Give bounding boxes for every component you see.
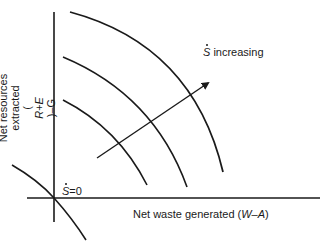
increasing-label-suffix: increasing <box>210 46 263 58</box>
curve-level-1 <box>63 100 147 185</box>
increasing-arrow <box>97 83 208 158</box>
y-axis-label-italic: R+E <box>33 74 45 142</box>
curve-level-3 <box>70 12 223 172</box>
s-dot-symbol: S <box>62 185 69 197</box>
x-axis-label-suffix: ) <box>265 208 269 220</box>
y-axis-label-prefix: ( <box>21 74 33 142</box>
zero-curve-label: S=0 <box>62 185 82 197</box>
zero-curve-label-suffix: =0 <box>69 185 82 197</box>
y-axis-label-line-1: Net resources <box>0 74 9 142</box>
x-axis-label: Net waste generated (W–A) <box>133 208 269 220</box>
y-axis-label-line-2: extracted <box>9 74 21 142</box>
curve-s-dot-zero <box>12 165 86 240</box>
curve-level-2 <box>63 57 187 187</box>
y-axis-label-suffix: )–G <box>45 74 57 142</box>
increasing-label: S increasing <box>203 46 264 58</box>
x-axis-label-prefix: Net waste generated ( <box>133 208 241 220</box>
x-axis-label-italic: W–A <box>241 208 265 220</box>
y-axis-label-line-3: (R+E)–G <box>21 74 57 142</box>
y-axis-label: Net resources extracted (R+E)–G <box>0 74 57 142</box>
s-dot-symbol: S <box>203 46 210 58</box>
